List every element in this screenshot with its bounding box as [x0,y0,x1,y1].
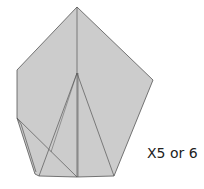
paper-outline [17,7,153,177]
repeat-count-label: X5 or 6 [147,145,198,161]
